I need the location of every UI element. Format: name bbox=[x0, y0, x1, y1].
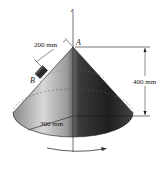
z-axis-label: z bbox=[70, 6, 74, 14]
block-b bbox=[35, 66, 48, 79]
block-label: B bbox=[30, 76, 35, 85]
rotation-arrow-icon bbox=[47, 148, 104, 151]
height-arrow-top bbox=[144, 48, 147, 52]
slant-label: 200 mm bbox=[34, 41, 58, 49]
radius-label: 300 mm bbox=[40, 120, 64, 128]
slant-ext-top bbox=[65, 38, 73, 47]
rotation-arrowhead-icon bbox=[101, 147, 107, 151]
slant-ext-bottom bbox=[34, 59, 42, 67]
height-label: 400 mm bbox=[133, 78, 157, 86]
cone-diagram: z 300 mm A 400 mm 200 mm B bbox=[0, 0, 167, 169]
height-arrow-bottom bbox=[144, 111, 147, 115]
apex-label: A bbox=[75, 38, 81, 47]
